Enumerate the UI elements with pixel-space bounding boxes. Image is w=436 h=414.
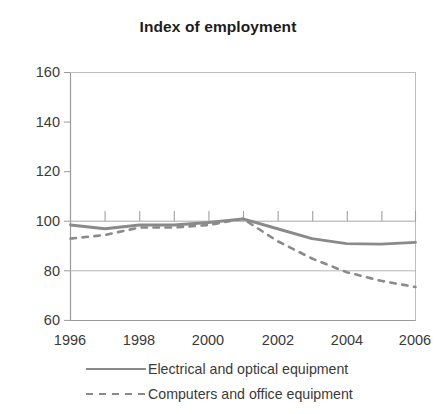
- x-tick-label: 2004: [322, 333, 372, 348]
- legend-item-label: Electrical and optical equipment: [148, 361, 348, 377]
- x-tick-label: 2000: [183, 333, 233, 348]
- x-tick-label: 2006: [390, 333, 436, 348]
- axis-frame: [70, 72, 416, 321]
- chart-plot-area: [0, 0, 436, 414]
- y-tick-label: 140: [18, 115, 60, 130]
- y-tick-label: 80: [18, 264, 60, 279]
- y-tick-label: 120: [18, 164, 60, 179]
- x-tick-label: 1996: [45, 333, 95, 348]
- legend-item-computers: Computers and office equipment: [84, 381, 436, 406]
- y-tick-label: 100: [18, 214, 60, 229]
- y-axis-ticks: [64, 73, 70, 321]
- chart-legend: Electrical and optical equipment Compute…: [84, 356, 436, 406]
- chart-figure: 160 140 120 100 80 60 1996 1998 2000 200…: [0, 0, 436, 414]
- x-tick-label: 2002: [253, 333, 303, 348]
- series-line-computers: [71, 219, 416, 287]
- y-tick-label: 60: [18, 313, 60, 328]
- x-tick-label: 1998: [114, 333, 164, 348]
- y-tick-label: 160: [18, 65, 60, 80]
- dashed-line-swatch-icon: [84, 388, 148, 400]
- gridlines: [70, 221, 416, 271]
- solid-line-swatch-icon: [84, 363, 148, 375]
- legend-item-electrical: Electrical and optical equipment: [84, 356, 436, 381]
- legend-item-label: Computers and office equipment: [148, 386, 353, 402]
- data-series-layer: [71, 219, 416, 287]
